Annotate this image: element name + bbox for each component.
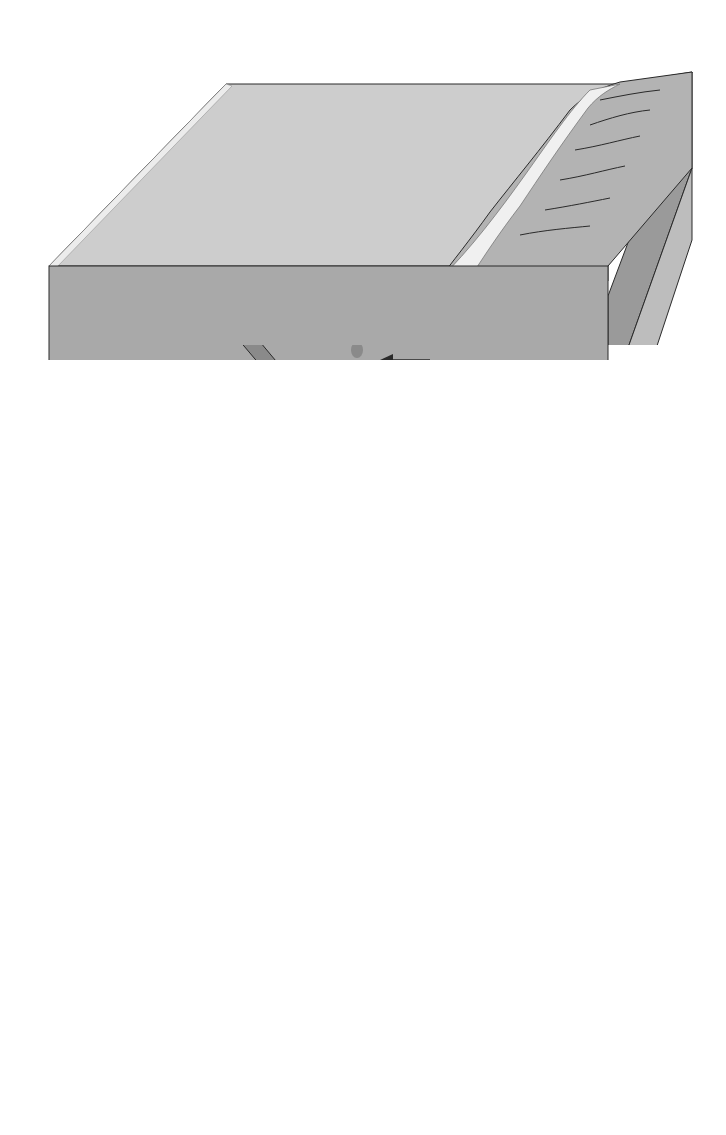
diagram-a-svg (0, 0, 726, 345)
panel-a-accurate (0, 0, 726, 345)
